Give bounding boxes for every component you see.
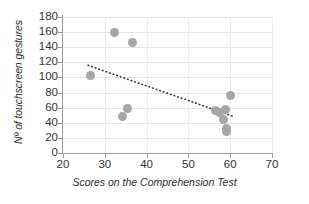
plot-area [63,17,272,153]
y-axis-tick [58,123,62,124]
y-axis-tick [58,138,62,139]
data-point [222,127,231,136]
x-axis-tick-label: 70 [252,159,292,171]
y-axis-tick-label: 60 [18,102,58,114]
data-point [128,38,137,47]
y-axis-tick-label: 80 [18,87,58,99]
y-axis-tick [58,17,62,18]
data-point [226,91,235,100]
y-axis-tick [58,47,62,48]
y-axis-tick [58,62,62,63]
y-axis-tick-label: 20 [18,132,58,144]
y-axis-tick [58,108,62,109]
data-point [219,115,228,124]
x-axis-title: Scores on the Comprehension Test [0,176,309,188]
x-axis-tick-label: 40 [127,159,167,171]
y-axis-tick-label: 180 [18,11,58,23]
x-axis-line [62,153,273,154]
y-axis-tick [58,32,62,33]
y-axis-tick-label: 40 [18,117,58,129]
y-axis-tick-label: 160 [18,26,58,38]
gridline-vertical [272,17,273,153]
x-axis-tick-label: 30 [85,159,125,171]
x-axis-tick-label: 50 [168,159,208,171]
trendline [63,17,272,153]
y-axis-tick-label: 140 [18,41,58,53]
y-axis-tick-label: 100 [18,71,58,83]
y-axis-tick-label: 0 [18,147,58,159]
y-axis-tick [58,77,62,78]
y-axis-tick [58,153,62,154]
y-axis-tick [58,93,62,94]
scatter-chart: Nº of touchscreen gestures Scores on the… [0,0,309,204]
y-axis-tick-label: 120 [18,56,58,68]
x-axis-tick-label: 60 [210,159,250,171]
data-point [110,28,119,37]
x-axis-tick-label: 20 [43,159,83,171]
